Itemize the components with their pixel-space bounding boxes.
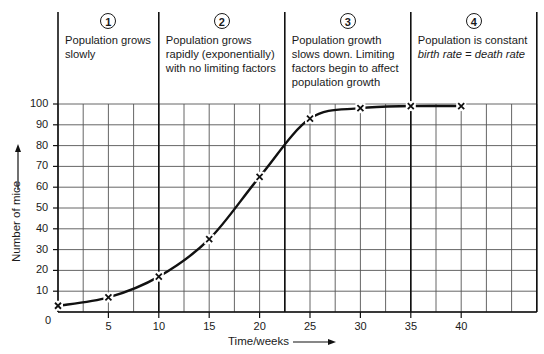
y-tick-label: 20 xyxy=(36,263,48,275)
x-tick-label: 5 xyxy=(105,320,111,332)
y-tick-label: 10 xyxy=(36,284,48,296)
y-tick-label: 60 xyxy=(36,180,48,192)
x-tick-label: 40 xyxy=(455,320,467,332)
stage-description: Population growsrapidly (exponentially)w… xyxy=(166,33,276,75)
stage-description: Population growsslowly xyxy=(65,33,151,61)
x-tick-label: 25 xyxy=(304,320,316,332)
grid xyxy=(58,104,537,312)
stage-text-line: Population growth xyxy=(292,33,399,47)
stage-text-line: Population grows xyxy=(166,33,276,47)
stage-italic-line: birth rate = death rate xyxy=(418,47,527,61)
axis-arrows xyxy=(15,144,336,345)
stage-text-line: slows down. Limiting xyxy=(292,47,399,61)
stage-text-line: slowly xyxy=(65,47,151,61)
stage-text-line: Population grows xyxy=(65,33,151,47)
x-tick-label: 35 xyxy=(405,320,417,332)
y-tick-label: 40 xyxy=(36,222,48,234)
stage-text-line: rapidly (exponentially) xyxy=(166,47,276,61)
stage-text-line: with no limiting factors xyxy=(166,61,276,75)
y-tick-label: 50 xyxy=(36,201,48,213)
origin-label: 0 xyxy=(45,314,51,326)
y-arrow-head xyxy=(15,144,21,152)
y-axis-label: Number of mice xyxy=(10,181,22,262)
stage-text-line: Population is constant xyxy=(418,33,527,47)
y-tick-label: 100 xyxy=(30,97,48,109)
stage-text-line: factors begin to affect xyxy=(292,61,399,75)
x-arrow-head xyxy=(328,339,336,345)
stage-number-badge: 4 xyxy=(466,13,482,29)
stage-number-badge: 2 xyxy=(214,13,230,29)
stage-number-badge: 3 xyxy=(340,13,356,29)
x-axis-label: Time/weeks xyxy=(228,335,289,347)
stage-description: Population growthslows down. Limitingfac… xyxy=(292,33,399,89)
x-tick-label: 15 xyxy=(203,320,215,332)
y-tick-label: 80 xyxy=(36,139,48,151)
y-tick-label: 30 xyxy=(36,243,48,255)
axes xyxy=(53,104,537,318)
stage-text-line: population growth xyxy=(292,75,399,89)
y-tick-label: 90 xyxy=(36,118,48,130)
x-tick-label: 30 xyxy=(354,320,366,332)
stage-description: Population is constantbirth rate = death… xyxy=(418,33,527,61)
y-tick-label: 70 xyxy=(36,159,48,171)
x-tick-label: 10 xyxy=(153,320,165,332)
x-tick-label: 20 xyxy=(254,320,266,332)
